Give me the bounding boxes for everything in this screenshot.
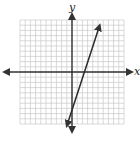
x-axis-label: x: [134, 66, 140, 77]
y-axis-label: y: [69, 2, 75, 13]
coordinate-graph: [0, 0, 140, 142]
